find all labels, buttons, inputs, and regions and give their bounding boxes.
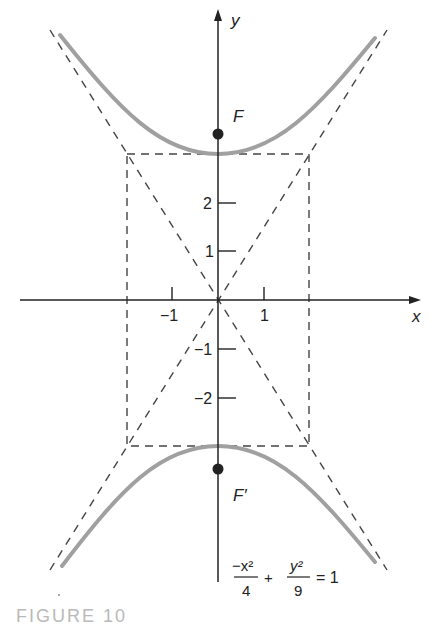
focus-lower-dot [213,464,224,475]
y-tick-label-neg2: −2 [194,390,212,407]
equation-term1-numerator: −x² [232,557,253,574]
x-axis-label: x [411,307,421,326]
focus-upper-label: F [233,107,245,126]
x-tick-label-pos1: 1 [260,307,269,324]
y-axis-arrow-icon [214,9,222,21]
focus-upper-dot [213,129,224,140]
equation-plus: + [264,569,273,586]
equation-term2-numerator: y² [289,557,304,574]
x-axis-arrow-icon [409,296,421,304]
x-tick-label-neg1: −1 [160,307,178,324]
figure-caption: FIGURE 10 [16,606,127,624]
hyperbola-diagram: y x −1 1 2 1 −1 −2 F F′ −x² 4 + y² 9 = 1 [0,0,441,624]
y-axis-label: y [230,11,241,30]
equation-rhs: = 1 [316,569,339,586]
stray-mark [58,594,60,596]
equation-term2-denominator: 9 [294,582,302,599]
y-tick-label-1: 1 [205,243,214,260]
y-tick-label-neg1: −1 [194,341,212,358]
focus-lower-label: F′ [233,486,247,505]
equation: −x² 4 + y² 9 = 1 [232,557,339,599]
y-tick-label-2: 2 [203,195,212,212]
equation-term1-denominator: 4 [242,582,250,599]
